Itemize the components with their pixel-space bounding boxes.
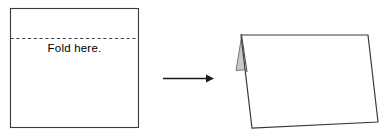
transformation-arrow-group xyxy=(163,75,214,83)
diagram-canvas xyxy=(0,0,385,136)
arrow-head-icon xyxy=(206,75,214,83)
folded-card-group xyxy=(236,34,378,128)
unfolded-sheet-group xyxy=(11,9,139,128)
folded-card-front-panel xyxy=(241,35,378,128)
unfolded-sheet-outline xyxy=(11,9,139,128)
fold-here-label: Fold here. xyxy=(10,42,139,54)
fold-diagram: Fold here. xyxy=(0,0,385,136)
